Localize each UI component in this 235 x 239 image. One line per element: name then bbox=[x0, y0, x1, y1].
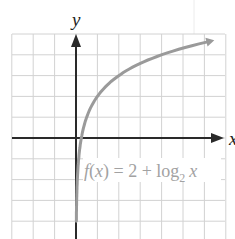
fn-log-base: 2 bbox=[179, 171, 185, 185]
x-axis-arrow-icon bbox=[211, 133, 224, 143]
fn-log-arg: x bbox=[188, 161, 197, 181]
curve-arrow-icon bbox=[205, 38, 214, 47]
grid bbox=[12, 34, 226, 239]
fn-body: = 2 + log bbox=[109, 161, 179, 181]
log-function-graph: x y f(x) = 2 + log2x bbox=[0, 0, 235, 239]
y-axis-label: y bbox=[70, 9, 81, 30]
y-axis-arrow-icon bbox=[71, 34, 81, 47]
x-axis-label: x bbox=[228, 128, 235, 149]
function-curve bbox=[76, 42, 206, 221]
fn-arg: x bbox=[94, 161, 103, 181]
